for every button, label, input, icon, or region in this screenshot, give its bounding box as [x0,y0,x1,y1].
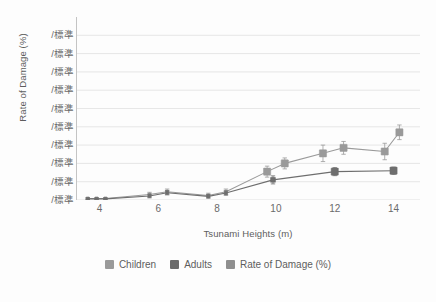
legend-swatch-icon [170,260,179,269]
y-axis-tick-label: /標準 [28,195,74,205]
x-axis-tick-label: 14 [388,203,399,214]
legend-label: Rate of Damage (%) [240,259,331,270]
series-adults [86,167,398,200]
data-point-marker [340,144,347,151]
data-point-marker [264,168,271,175]
y-axis-tick-label: /標準 [28,122,74,132]
legend-item-children[interactable]: Children [105,259,156,270]
data-point-marker [319,150,326,157]
data-point-marker [270,177,275,182]
data-point-marker [396,129,403,136]
x-axis-tick-label: 4 [97,203,103,214]
x-axis-tick-labels: 468101214 [76,203,420,219]
data-point-marker [331,168,338,175]
y-axis-tick-label: /標準 [28,177,74,187]
plot-svg [76,17,420,200]
data-point-marker [207,195,210,198]
data-point-marker [224,191,227,194]
x-axis-tick-label: 8 [214,203,220,214]
x-axis-title: Tsunami Heights (m) [76,228,420,239]
data-point-marker [104,197,107,200]
data-point-marker [86,197,89,200]
legend-swatch-icon [226,260,235,269]
y-axis-tick-labels: /標準/標準/標準/標準/標準/標準/標準/標準/標準/標準 [28,17,74,200]
data-point-marker [166,191,169,194]
chart-figure: Rate of Damage (%) /標準/標準/標準/標準/標準/標準/標準… [0,0,436,302]
y-axis-tick-label: /標準 [28,67,74,77]
legend-item-rate-of-damage[interactable]: Rate of Damage (%) [226,259,331,270]
y-axis-tick-label: /標準 [28,49,74,59]
x-axis-tick-label: 6 [156,203,162,214]
data-point-marker [381,148,388,155]
legend-label: Adults [184,259,212,270]
y-axis-tick-label: /標準 [28,85,74,95]
x-axis-tick-label: 10 [270,203,281,214]
legend-swatch-icon [105,260,114,269]
y-axis-tick-label: /標準 [28,104,74,114]
y-axis-tick-label: /標準 [28,30,74,40]
series-children [86,125,403,200]
chart-legend: ChildrenAdultsRate of Damage (%) [0,259,436,270]
y-axis-tick-label: /標準 [28,158,74,168]
data-point-marker [95,197,98,200]
legend-label: Children [119,259,156,270]
data-point-marker [281,160,288,167]
plot-area [76,17,420,200]
x-axis-tick-label: 12 [329,203,340,214]
data-point-marker [148,194,151,197]
legend-item-adults[interactable]: Adults [170,259,212,270]
data-point-marker [390,167,397,174]
y-axis-tick-label: /標準 [28,140,74,150]
y-axis-title: Rate of Damage (%) [17,8,28,148]
